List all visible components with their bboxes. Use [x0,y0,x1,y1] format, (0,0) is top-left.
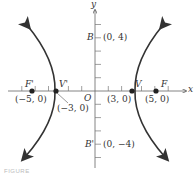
figure-caption: FIGURE [4,168,30,174]
focus-right-name: F [161,80,167,89]
co-vertex-top-coords: (0, 4) [103,33,127,42]
leader-line [57,93,68,103]
vertex-left-name: V' [59,80,68,89]
focus-left-name: F' [25,80,34,89]
focus-left-point [29,88,34,93]
vertex-left-coords: (−3, 0) [57,104,89,113]
co-vertex-top-name: B [87,33,94,42]
co-vertex-bottom-coords: (0, −4) [103,140,135,149]
vertex-right-name: V [135,80,142,89]
vertex-left-point [53,88,58,93]
origin-label: O [84,94,91,103]
focus-right-coords: (5, 0) [145,95,169,104]
co-vertex-bottom-name: B' [85,140,94,149]
y-axis-label: y [91,0,96,9]
vertex-right-point [129,88,134,93]
vertex-right-coords: (3, 0) [107,95,131,104]
focus-left-coords: (−5, 0) [15,95,47,104]
focus-right-point [153,88,158,93]
x-axis-label: x [188,85,193,94]
